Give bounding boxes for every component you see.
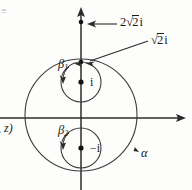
label-sqrt2i: √2i [151,33,168,47]
label-2sqrt2i-radical: √2 [126,15,139,29]
label-2sqrt2i-unit: i [139,15,142,29]
label-sqrt2i-unit: i [164,33,167,47]
complex-plane-figure: ≡ , z) 2√2i √2i i −i β1 β2 α [0,0,192,190]
corner-mark: ≡ [1,6,7,16]
label-alpha: α [141,147,148,160]
branch-point-dot-2sqrt2i [79,20,84,25]
label-2sqrt2i: 2√2i [120,15,143,29]
label-beta2-subscript: 2 [64,129,68,138]
leader-sqrt2i [90,41,148,61]
label-pole-upper: i [90,76,93,88]
label-beta1: β1 [58,58,68,72]
left-margin-text: , z) [0,122,13,134]
label-sqrt2i-radicand: 2 [157,33,164,47]
label-beta1-subscript: 1 [64,63,68,72]
alpha-orientation-arrowhead [132,144,139,153]
pole-dot-lower [78,145,83,150]
pole-dot-upper [78,79,83,84]
label-2sqrt2i-radicand: 2 [132,15,139,29]
label-beta2: β2 [58,124,68,138]
label-pole-lower: −i [90,142,100,154]
figure-canvas [0,0,192,190]
label-sqrt2i-radical: √2 [151,33,164,47]
